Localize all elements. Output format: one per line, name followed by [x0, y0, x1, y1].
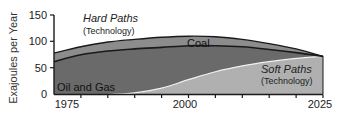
hard-paths-title: Hard Paths [83, 12, 139, 24]
x-tick-1975: 1975 [55, 98, 79, 110]
oil-gas-label: Oil and Gas [57, 81, 116, 93]
y-tick-100: 100 [29, 35, 47, 47]
energy-paths-chart: 150 100 50 0 Exajoules per Year 1975 200… [0, 0, 346, 116]
soft-paths-subtitle: (Technology) [261, 76, 313, 86]
x-axis: 1975 2000 2025 [54, 95, 332, 111]
coal-label: Coal [187, 37, 210, 49]
y-tick-150: 150 [29, 9, 47, 21]
hard-paths-subtitle: (Technology) [83, 26, 135, 36]
y-tick-0: 0 [41, 88, 47, 100]
y-tick-50: 50 [35, 62, 47, 74]
y-axis: 150 100 50 0 Exajoules per Year [7, 9, 54, 104]
x-tick-2000: 2000 [173, 98, 197, 110]
soft-paths-title: Soft Paths [261, 63, 312, 75]
x-tick-2025: 2025 [308, 98, 332, 110]
y-axis-label: Exajoules per Year [7, 12, 19, 104]
